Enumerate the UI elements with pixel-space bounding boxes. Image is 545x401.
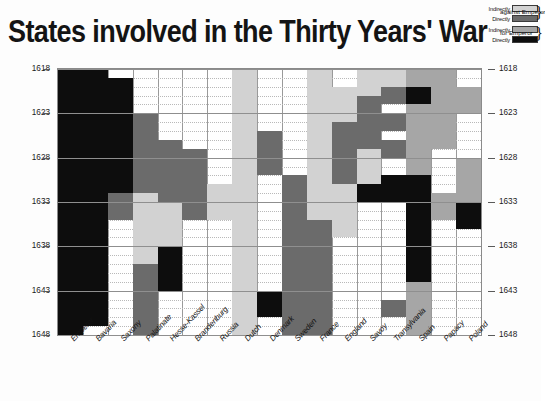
- y-tick-mark-right: [488, 291, 495, 292]
- gridlines-major: [58, 69, 481, 335]
- legend-label-directly-against: Directly: [492, 16, 510, 22]
- y-tick-mark-left: [43, 69, 50, 70]
- y-tick-label-right: 1638: [499, 241, 517, 250]
- y-tick-mark-left: [43, 158, 50, 159]
- y-tick-mark-right: [488, 202, 495, 203]
- legend-group-against: Indirectly Directly } against Emperor: [418, 4, 538, 23]
- y-tick-mark-left: [43, 246, 50, 247]
- heatmap-grid: [57, 68, 482, 336]
- legend-label-directly-for: Directly: [492, 37, 510, 43]
- y-tick-mark-right: [488, 158, 495, 159]
- y-tick-mark-left: [43, 113, 50, 114]
- legend-swatch-direct-against: [512, 15, 538, 22]
- legend-swatch-direct-for: [512, 36, 538, 43]
- gridline-horizontal-major: [58, 246, 481, 247]
- legend-brace-for: }: [535, 25, 543, 42]
- y-tick-mark-left: [43, 335, 50, 336]
- gridline-horizontal-major: [58, 202, 481, 203]
- gridline-horizontal-major: [58, 158, 481, 159]
- y-tick-mark-left: [43, 291, 50, 292]
- y-axis-right: 1618162316281633163816431648: [487, 68, 531, 336]
- y-tick-label-right: 1648: [499, 330, 517, 339]
- page-title: States involved in the Thirty Years' War: [8, 14, 487, 51]
- plot-area: [57, 68, 482, 336]
- y-tick-label-right: 1633: [499, 197, 517, 206]
- y-tick-mark-left: [43, 202, 50, 203]
- y-tick-mark-right: [488, 113, 495, 114]
- gridline-horizontal-major: [58, 291, 481, 292]
- y-axis-left: 1618162316281633163816431648: [10, 68, 50, 336]
- legend-category-against: against Emperor: [500, 8, 545, 15]
- legend: Indirectly Directly } against Emperor In…: [418, 4, 538, 46]
- x-axis-labels: EmperorBavariaSaxonyPalatinateHesse-Kass…: [57, 337, 482, 399]
- y-tick-mark-right: [488, 69, 495, 70]
- gridline-horizontal-major: [58, 113, 481, 114]
- legend-group-for: Indirectly Directly } for Emperor: [418, 25, 538, 44]
- y-tick-label-right: 1628: [499, 153, 517, 162]
- legend-category-for: for Emperor: [500, 29, 533, 36]
- y-tick-label-right: 1623: [499, 108, 517, 117]
- y-tick-label-right: 1643: [499, 286, 517, 295]
- legend-entry-direct-against: Directly: [418, 14, 538, 23]
- y-tick-label-right: 1618: [499, 64, 517, 73]
- y-tick-mark-right: [488, 246, 495, 247]
- y-tick-mark-right: [488, 335, 495, 336]
- legend-entry-direct-for: Directly: [418, 35, 538, 44]
- gridline-horizontal-major: [58, 69, 481, 70]
